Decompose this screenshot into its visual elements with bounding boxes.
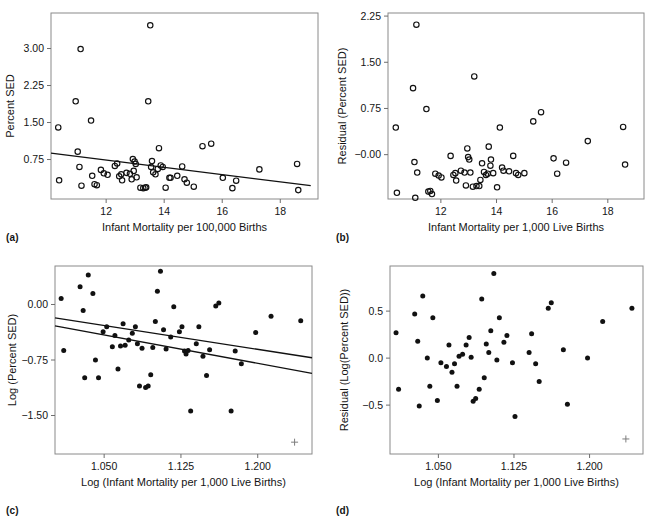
- data-point: [168, 335, 173, 340]
- x-tick-label: 1.200: [576, 460, 602, 472]
- data-point: [135, 341, 140, 346]
- data-point: [527, 350, 532, 355]
- y-tick-label: 0.0: [368, 352, 383, 364]
- data-point: [123, 343, 128, 348]
- data-point: [230, 185, 235, 190]
- data-point: [104, 324, 109, 329]
- data-point: [412, 311, 417, 316]
- data-point: [75, 149, 80, 154]
- data-point: [177, 329, 182, 334]
- data-point: [494, 185, 499, 190]
- data-point: [394, 330, 399, 335]
- data-point: [490, 170, 495, 175]
- scatter-plot-a: 121416180.751.502.253.00Infant Mortality…: [0, 0, 330, 250]
- data-point: [538, 109, 543, 114]
- data-point: [512, 414, 517, 419]
- data-point: [448, 153, 453, 158]
- data-point: [220, 175, 225, 180]
- scatter-plot-d: 1.0501.1251.200−0.50.00.5Log (Infant Mor…: [330, 250, 659, 527]
- data-point: [207, 347, 212, 352]
- data-point: [110, 344, 115, 349]
- data-point: [477, 387, 482, 392]
- data-point: [163, 185, 168, 190]
- data-point: [561, 347, 566, 352]
- x-tick-label: 1.125: [168, 460, 194, 472]
- x-tick-label: 18: [602, 205, 614, 217]
- data-point: [497, 125, 502, 130]
- panel-d-caption: (d): [336, 505, 349, 516]
- x-tick-label: 12: [100, 205, 112, 217]
- data-point: [200, 144, 205, 149]
- data-point: [149, 158, 154, 163]
- x-tick-label: 16: [216, 205, 228, 217]
- data-point: [486, 144, 491, 149]
- data-point: [549, 300, 554, 305]
- data-point: [121, 321, 126, 326]
- data-point: [77, 164, 82, 169]
- data-point: [484, 342, 489, 347]
- x-tick-label: 18: [274, 205, 286, 217]
- data-point: [253, 330, 258, 335]
- data-point: [101, 329, 106, 334]
- data-point: [600, 319, 605, 324]
- data-point: [396, 387, 401, 392]
- data-point: [119, 178, 124, 183]
- panel-b: 12141618−0.000.751.502.25Infant Mortalit…: [330, 0, 659, 250]
- x-axis-label: Log (Infant Mortality per 1,000 Live Bir…: [414, 476, 619, 488]
- data-point: [269, 314, 274, 319]
- data-point: [179, 164, 184, 169]
- data-point: [410, 85, 415, 90]
- data-point: [444, 364, 449, 369]
- x-axis-label: Log (Infant Mortality per 1,000 Live Bir…: [81, 476, 286, 488]
- data-point: [522, 170, 527, 175]
- y-axis-label: Log (Percent SED): [6, 314, 18, 406]
- data-point: [78, 46, 83, 51]
- y-axis-label: Percent SED: [4, 74, 16, 138]
- data-point: [171, 304, 176, 309]
- data-point: [229, 409, 234, 414]
- data-point: [504, 333, 509, 338]
- data-point: [394, 190, 399, 195]
- data-point: [155, 289, 160, 294]
- data-point: [216, 301, 221, 306]
- data-point: [455, 384, 460, 389]
- data-point: [427, 384, 432, 389]
- data-point: [497, 315, 502, 320]
- data-point: [415, 170, 420, 175]
- data-point: [415, 339, 420, 344]
- plus-marker-icon: [291, 439, 298, 446]
- data-point: [393, 125, 398, 130]
- data-point: [194, 341, 199, 346]
- data-point: [298, 318, 303, 323]
- y-tick-label: −0.5: [362, 399, 383, 411]
- data-point: [452, 361, 457, 366]
- data-point: [158, 269, 163, 274]
- data-point: [414, 22, 419, 27]
- data-point: [464, 342, 469, 347]
- y-tick-label: 2.25: [24, 79, 45, 91]
- data-point: [81, 308, 86, 313]
- data-point: [146, 383, 151, 388]
- data-point: [469, 355, 474, 360]
- data-point: [82, 375, 87, 380]
- data-point: [488, 163, 493, 168]
- data-point: [79, 183, 84, 188]
- data-point: [473, 396, 478, 401]
- data-point: [565, 402, 570, 407]
- data-point: [533, 361, 538, 366]
- data-point: [413, 195, 418, 200]
- panel-d: 1.0501.1251.200−0.50.00.5Log (Infant Mor…: [330, 250, 659, 527]
- data-point: [510, 360, 515, 365]
- data-point: [200, 354, 205, 359]
- y-axis-label: Residual (Log(Percent SED)): [338, 289, 350, 431]
- data-point: [417, 404, 422, 409]
- panel-a: 121416180.751.502.253.00Infant Mortality…: [0, 0, 330, 250]
- data-point: [93, 358, 98, 363]
- data-point: [467, 335, 472, 340]
- data-point: [506, 169, 511, 174]
- y-tick-label: −0.75: [21, 354, 48, 366]
- data-point: [501, 340, 506, 345]
- data-point: [435, 398, 440, 403]
- data-point: [424, 106, 429, 111]
- data-point: [153, 319, 158, 324]
